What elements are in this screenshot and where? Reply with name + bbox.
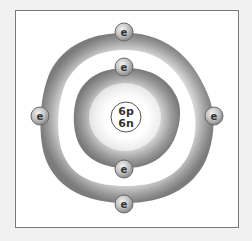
nucleus: 6p 6n xyxy=(111,102,141,132)
electron-label: e xyxy=(121,62,128,73)
electron-label: e xyxy=(121,199,128,210)
atom-diagram: 6p 6n e e e e e e xyxy=(0,0,252,241)
electron-label: e xyxy=(211,111,218,122)
electron-outer-bottom: e xyxy=(115,195,133,213)
nucleus-neutrons-label: 6n xyxy=(118,117,134,130)
electron-label: e xyxy=(121,27,128,38)
electron-outer-right: e xyxy=(205,107,223,125)
electron-inner-bottom: e xyxy=(115,160,133,178)
electron-label: e xyxy=(37,111,44,122)
electron-outer-top: e xyxy=(115,23,133,41)
electron-inner-top: e xyxy=(115,58,133,76)
electron-label: e xyxy=(121,164,128,175)
electron-outer-left: e xyxy=(31,107,49,125)
